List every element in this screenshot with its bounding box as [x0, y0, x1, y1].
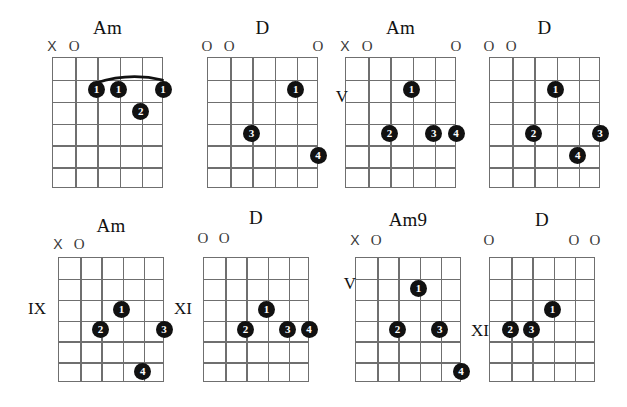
chord-name: Am	[58, 216, 164, 235]
muted-string-icon: X	[349, 234, 362, 247]
fretboard-grid	[58, 257, 164, 382]
fret-line	[490, 341, 594, 342]
open-string-icon: O	[73, 238, 86, 251]
chord-diagram: AmXO1234	[28, 0, 194, 407]
chord-diagram: DOO1234	[173, 0, 339, 407]
chord-name: D	[203, 208, 309, 227]
fret-line	[204, 362, 308, 363]
fret-line	[204, 341, 308, 342]
fretboard-grid	[489, 257, 595, 382]
fret-position-label: V	[330, 275, 356, 292]
open-muted-marker-row: XO	[355, 234, 461, 249]
finger-dot: 4	[301, 321, 318, 338]
open-string-icon: O	[589, 234, 602, 247]
open-string-icon: O	[370, 234, 383, 247]
fret-line	[356, 341, 460, 342]
fret-position-label: IX	[20, 300, 46, 317]
fret-line	[204, 300, 308, 301]
fret-line	[59, 300, 163, 301]
fret-line	[490, 362, 594, 363]
fretboard-grid	[355, 257, 461, 382]
chord-diagram: DOOO123	[459, 0, 625, 407]
finger-dot: 1	[410, 280, 427, 297]
fret-line	[490, 300, 594, 301]
open-string-icon: O	[567, 234, 580, 247]
finger-dot: 1	[113, 301, 130, 318]
fret-line	[356, 279, 460, 280]
chord-name: D	[489, 210, 595, 229]
open-string-icon: O	[218, 232, 231, 245]
fretboard-grid	[203, 257, 309, 382]
fret-line	[204, 279, 308, 280]
open-muted-marker-row: OOO	[489, 234, 595, 249]
fret-line	[356, 362, 460, 363]
open-muted-marker-row: XO	[58, 238, 164, 253]
fret-line	[59, 362, 163, 363]
fret-line	[59, 341, 163, 342]
finger-dot: 1	[258, 301, 275, 318]
muted-string-icon: X	[52, 238, 65, 251]
chord-name: Am9	[355, 210, 461, 229]
fret-line	[356, 300, 460, 301]
fret-line	[59, 321, 163, 322]
fret-position-label: XI	[463, 322, 489, 339]
fret-line	[59, 279, 163, 280]
chord-chart-sheet: AmXO1112DOOO134AmXOO1234VDOO1234AmXO1234…	[0, 0, 627, 407]
finger-dot: 3	[156, 321, 173, 338]
fret-line	[490, 279, 594, 280]
open-muted-marker-row: OO	[203, 232, 309, 247]
open-string-icon: O	[197, 232, 210, 245]
finger-dot: 2	[502, 321, 519, 338]
fret-position-label: XI	[166, 300, 192, 317]
open-string-icon: O	[483, 234, 496, 247]
finger-dot: 1	[544, 301, 561, 318]
